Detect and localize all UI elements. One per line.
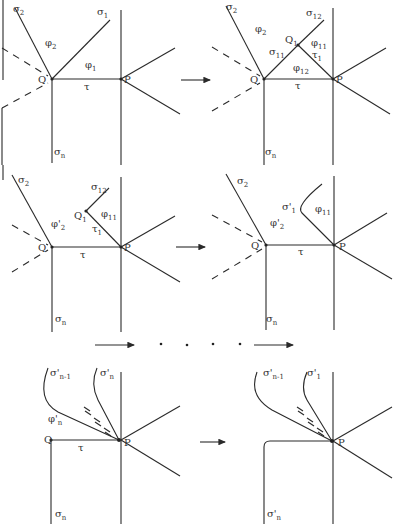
dashed-edge-upper bbox=[212, 47, 260, 76]
multi-edge-tick bbox=[84, 407, 90, 411]
vertex-P bbox=[119, 245, 122, 248]
multi-edge-tick bbox=[307, 418, 313, 422]
label-P: P bbox=[124, 242, 131, 253]
label-P: P bbox=[124, 74, 131, 85]
label-Q: Q bbox=[38, 74, 46, 85]
edge-sigma-n-minus-1-prime bbox=[44, 368, 119, 440]
edge-sigma1-prime bbox=[304, 372, 333, 441]
multi-edge-tick bbox=[94, 418, 100, 422]
label-Q1: Q1 bbox=[74, 210, 87, 224]
edge-P-upper-right bbox=[121, 406, 180, 440]
label-phi-n-prime: φ'n bbox=[48, 413, 63, 427]
label-sigman: σn bbox=[54, 146, 66, 160]
label-tau: τ bbox=[298, 246, 304, 257]
label-tau: τ bbox=[78, 442, 84, 453]
label-Q: Q bbox=[251, 240, 259, 251]
label-P: P bbox=[339, 241, 346, 252]
label-sigma-n-prime: σ'n bbox=[267, 508, 282, 522]
ellipsis-dot bbox=[212, 343, 215, 346]
label-phi2: φ2 bbox=[45, 37, 56, 51]
multi-edge-tick bbox=[95, 422, 101, 426]
label-phi2-prime: φ'2 bbox=[51, 218, 65, 232]
ellipsis-dot bbox=[239, 343, 242, 346]
label-sigman: σn bbox=[266, 313, 278, 327]
label-P: P bbox=[124, 437, 131, 448]
vertex-P bbox=[117, 438, 121, 442]
label-sigma-n-minus-1-prime: σ'n-1 bbox=[50, 367, 71, 381]
label-tau: τ bbox=[80, 249, 86, 260]
multi-edge-tick bbox=[308, 422, 314, 426]
diagram-canvas: σ2 σ1 φ2 φ1 Q P τ σn σ2 σ12 φ2 Q1 φ11 σ1… bbox=[0, 0, 397, 528]
label-phi11: φ11 bbox=[315, 203, 331, 217]
label-sigman: σn bbox=[55, 313, 67, 327]
edge-sigma1 bbox=[52, 20, 110, 79]
vertex-Q1 bbox=[84, 209, 87, 212]
dashed-edge-lower bbox=[212, 83, 260, 111]
label-sigma12: σ12 bbox=[306, 7, 322, 21]
edge-sigma2 bbox=[12, 175, 52, 247]
label-sigma11: σ11 bbox=[269, 46, 285, 60]
transition-ellipsis-arrows bbox=[95, 343, 293, 347]
multi-edge-tick bbox=[298, 411, 304, 415]
dashed-edge-lower bbox=[12, 250, 48, 272]
panel-6: σ'n-1 σ'1 P σ'n bbox=[255, 367, 392, 524]
vertex-P bbox=[331, 77, 334, 80]
label-sigma-n-prime: σ'n bbox=[100, 367, 115, 381]
label-phi2: φ2 bbox=[255, 23, 266, 37]
dashed-edge-upper bbox=[2, 48, 48, 76]
label-sigman: σn bbox=[265, 146, 277, 160]
label-phi2-prime: φ'2 bbox=[270, 217, 284, 231]
label-sigma1-prime: σ'1 bbox=[282, 201, 296, 215]
label-tau: τ bbox=[84, 81, 90, 92]
vertex-P bbox=[332, 243, 335, 246]
multi-edge-tick bbox=[85, 411, 91, 415]
label-sigma2: σ2 bbox=[226, 1, 237, 15]
vertex-P bbox=[330, 439, 334, 443]
vertex-Q bbox=[50, 77, 53, 80]
label-P: P bbox=[336, 74, 343, 85]
label-sigma-n-minus-1-prime: σ'n-1 bbox=[263, 367, 284, 381]
vertex-Q bbox=[264, 243, 267, 246]
multi-edge-tick bbox=[317, 428, 323, 432]
panel-4: σ2 σ'1 φ11 φ'2 Q P τ σn bbox=[212, 174, 392, 330]
label-sigma1-prime: σ'1 bbox=[307, 367, 321, 381]
dashed-edge-lower bbox=[2, 83, 48, 108]
label-phi1: φ1 bbox=[85, 59, 96, 73]
dashed-edge-upper bbox=[212, 215, 262, 242]
label-sigma2: σ2 bbox=[18, 174, 29, 188]
ellipsis-dot bbox=[186, 344, 189, 347]
label-Q: Q bbox=[44, 434, 52, 445]
label-sigman: σn bbox=[55, 508, 67, 522]
label-Q: Q bbox=[38, 242, 46, 253]
ellipsis-dot bbox=[160, 343, 163, 346]
label-phi12: φ12 bbox=[293, 62, 309, 76]
label-Q1: Q1 bbox=[285, 34, 298, 48]
label-phi11: φ11 bbox=[101, 208, 117, 222]
label-sigma2: σ2 bbox=[237, 175, 248, 189]
edge-sigma2 bbox=[226, 6, 264, 79]
vertex-Q bbox=[262, 77, 265, 80]
label-tau: τ bbox=[295, 80, 301, 91]
panel-2: σ2 σ12 φ2 Q1 φ11 σ11 τ1 φ12 Q P τ σn bbox=[212, 1, 390, 165]
edge-P-upper-right bbox=[333, 407, 392, 441]
label-P: P bbox=[338, 437, 345, 448]
panel-1: σ2 σ1 φ2 φ1 Q P τ σn bbox=[2, 0, 180, 165]
dashed-edge-lower bbox=[212, 249, 262, 279]
label-tau1: τ1 bbox=[92, 223, 102, 237]
vertex-Q bbox=[50, 245, 53, 248]
vertex-P bbox=[119, 77, 122, 80]
label-sigma1: σ1 bbox=[97, 6, 108, 20]
label-tau1: τ1 bbox=[312, 49, 322, 63]
multi-edge-tick bbox=[297, 407, 303, 411]
label-sigma12: σ12 bbox=[91, 181, 107, 195]
multi-edge-tick bbox=[104, 428, 110, 432]
label-Q: Q bbox=[250, 74, 258, 85]
panel-5: σ'n-1 σ'n φ'n Q P τ σn bbox=[44, 367, 180, 524]
panel-3: σ2 σ12 Q1 φ'2 φ11 τ1 Q P τ σn bbox=[3, 165, 180, 332]
